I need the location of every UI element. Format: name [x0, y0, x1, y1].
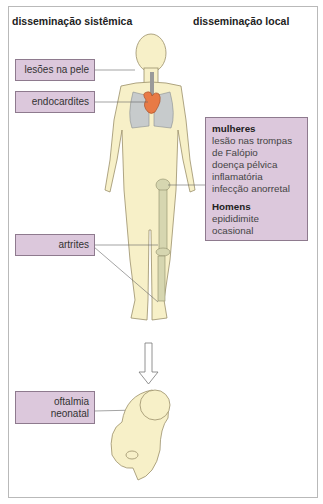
label-endocarditis: endocardites [15, 91, 95, 113]
label-skin-lesions: lesões na pele [15, 59, 95, 81]
local-dissemination-box: mulheres lesão nas trompas de Falópio do… [205, 117, 308, 241]
men-title: Homens [212, 201, 301, 213]
baby-figure [111, 390, 170, 480]
label-neonatal-ophthalmia: oftalmia neonatal [15, 391, 95, 424]
down-arrow-icon [139, 343, 158, 384]
label-arthritis: artrites [15, 234, 95, 256]
women-title: mulheres [212, 123, 301, 135]
